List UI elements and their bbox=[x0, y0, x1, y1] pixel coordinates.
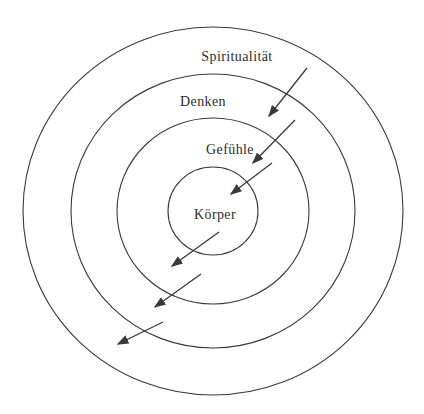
arrows-group bbox=[118, 68, 307, 344]
inward-arrow bbox=[231, 163, 272, 194]
inward-arrow bbox=[269, 68, 307, 116]
outward-arrow bbox=[172, 232, 219, 266]
ring-label-gefuehle: Gefühle bbox=[206, 142, 254, 157]
diagram-canvas: SpiritualitätDenkenGefühleKörper bbox=[0, 0, 424, 414]
concentric-rings-diagram: SpiritualitätDenkenGefühleKörper bbox=[0, 0, 424, 414]
ring-label-koerper: Körper bbox=[194, 207, 236, 222]
outward-arrow bbox=[118, 322, 163, 344]
inward-arrow bbox=[253, 120, 295, 163]
ring-label-denken: Denken bbox=[180, 94, 226, 109]
ring-label-spiritualitaet: Spiritualität bbox=[201, 49, 272, 64]
